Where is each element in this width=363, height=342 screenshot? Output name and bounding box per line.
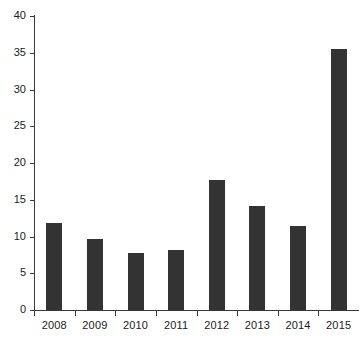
- x-tick-label: 2013: [237, 319, 278, 331]
- x-tick-label: 2014: [278, 319, 319, 331]
- x-tick-label: 2008: [34, 319, 75, 331]
- x-tick-label: 2015: [318, 319, 359, 331]
- bar: [249, 206, 265, 310]
- bar: [128, 253, 144, 310]
- x-tick-label: 2012: [197, 319, 238, 331]
- y-tick-label: 25: [0, 119, 26, 131]
- bar: [168, 250, 184, 310]
- bar: [209, 180, 225, 310]
- x-tick-label: 2011: [156, 319, 197, 331]
- x-tick-mark: [197, 311, 198, 316]
- x-tick-mark: [34, 311, 35, 316]
- y-tick-label: 10: [0, 230, 26, 242]
- y-tick-label: 40: [0, 9, 26, 21]
- y-tick-label: 35: [0, 46, 26, 58]
- y-tick-label: 20: [0, 156, 26, 168]
- bar: [331, 49, 347, 310]
- x-tick-mark: [318, 311, 319, 316]
- plot-area: [34, 16, 359, 310]
- x-tick-mark: [237, 311, 238, 316]
- bar: [290, 226, 306, 310]
- x-tick-label: 2009: [75, 319, 116, 331]
- x-tick-label: 2010: [115, 319, 156, 331]
- x-tick-mark: [278, 311, 279, 316]
- bar: [46, 223, 62, 310]
- x-tick-mark: [75, 311, 76, 316]
- y-tick-label: 15: [0, 193, 26, 205]
- y-tick-label: 0: [0, 303, 26, 315]
- x-tick-mark: [115, 311, 116, 316]
- bar: [87, 239, 103, 310]
- bar-chart: 0510152025303540 20082009201020112012201…: [0, 0, 363, 342]
- y-tick-label: 5: [0, 266, 26, 278]
- x-tick-mark: [156, 311, 157, 316]
- y-tick-label: 30: [0, 83, 26, 95]
